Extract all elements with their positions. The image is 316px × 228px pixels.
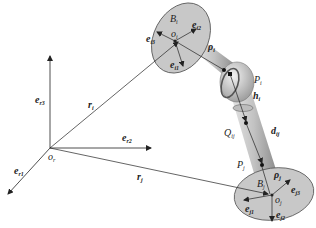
label-origin-r: or [48, 151, 56, 163]
label-rho-i: ρi [207, 41, 215, 53]
label-e-r3: er3 [35, 94, 45, 106]
label-e-r1: er1 [14, 165, 24, 177]
label-d-ij: dij [271, 125, 280, 137]
label-h-i: hi [253, 90, 261, 102]
label-e-r2: er2 [122, 132, 132, 144]
kinematics-diagram: or er3 er2 er1 ri rj Bi oi ei2 ei3 ei1 ρ… [0, 0, 316, 228]
label-P-i: Pi [253, 74, 262, 86]
reference-frame [8, 56, 151, 194]
label-P-j: Pj [236, 159, 245, 171]
label-r-i: ri [88, 99, 94, 111]
label-Q-ij: Qij [224, 127, 235, 139]
label-r-j: rj [137, 171, 143, 183]
